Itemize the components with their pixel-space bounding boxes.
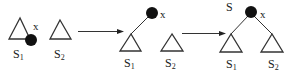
edge-x-to-s1 [231,16,248,34]
node-x-label: x [33,20,39,32]
subtree-s2-triangle [50,20,71,39]
tree-join-diagram: x S1 S2 x S1 S2 S x [0,0,289,73]
arrow-1 [78,29,124,34]
subtree-s1-label: S1 [13,47,24,62]
subtree-s1-triangle [220,34,242,52]
node-x [25,34,37,46]
subtree-s2-triangle [161,34,183,51]
subtree-s2-label: S2 [268,57,279,72]
node-x [146,7,158,19]
stage-1: x S1 S2 [9,18,71,62]
node-x [245,6,257,18]
node-x-label: x [160,8,166,20]
subtree-s2-label: S2 [165,56,176,71]
arrow-2 [182,31,226,36]
root-s-label: S [226,0,233,14]
subtree-s1-triangle [120,34,141,51]
subtree-s1-label: S1 [124,56,135,71]
arrow-1-head-icon [117,29,124,34]
stage-3: S x S1 S2 [220,0,283,72]
subtree-s2-label: S2 [54,47,65,62]
arrow-2-head-icon [219,31,226,36]
edge-x-to-s1 [131,17,148,34]
subtree-s1-label: S1 [226,57,237,72]
subtree-s2-triangle [261,34,283,52]
node-x-label: x [260,8,266,20]
stage-2: x S1 S2 [120,7,183,71]
